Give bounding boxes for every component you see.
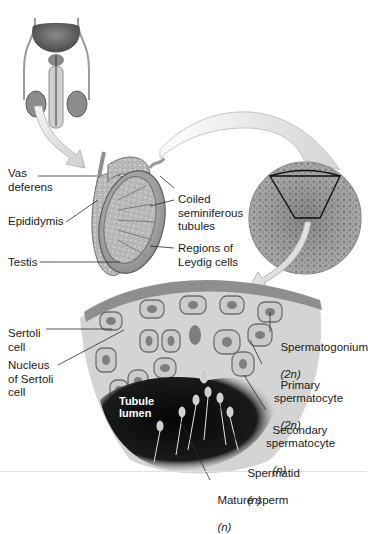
primary-spermatocyte-name: Primary spermatocyte <box>274 379 343 405</box>
secondary-spermatocyte-name: Secondary spermatocyte <box>266 424 335 450</box>
label-sertoli-nucleus: Nucleus of Sertoli cell <box>8 359 53 400</box>
tubule-extension <box>160 112 340 170</box>
spermatid-name: Spermatid <box>247 467 299 479</box>
mature-sperm-name: Mature sperm <box>217 494 288 506</box>
tubule-cross-section <box>249 162 361 274</box>
label-vas-deferens: Vas deferens <box>8 167 53 194</box>
reproductive-system-overview <box>24 18 89 128</box>
label-testis: Testis <box>8 256 37 270</box>
label-coiled-seminiferous-tubules: Coiled seminiferous tubules <box>178 193 243 234</box>
testis-illustration <box>90 152 174 280</box>
label-leydig-cells: Regions of Leydig cells <box>178 242 238 269</box>
mature-sperm-ploidy: (n) <box>217 521 231 533</box>
label-sertoli-cell: Sertoli cell <box>8 327 41 354</box>
label-epididymis: Epididymis <box>8 215 64 229</box>
label-mature-sperm: Mature sperm (n) <box>211 480 288 534</box>
spermatogonium-name: Spermatogonium <box>280 341 368 353</box>
label-tubule-lumen: Tubule lumen <box>119 395 154 419</box>
